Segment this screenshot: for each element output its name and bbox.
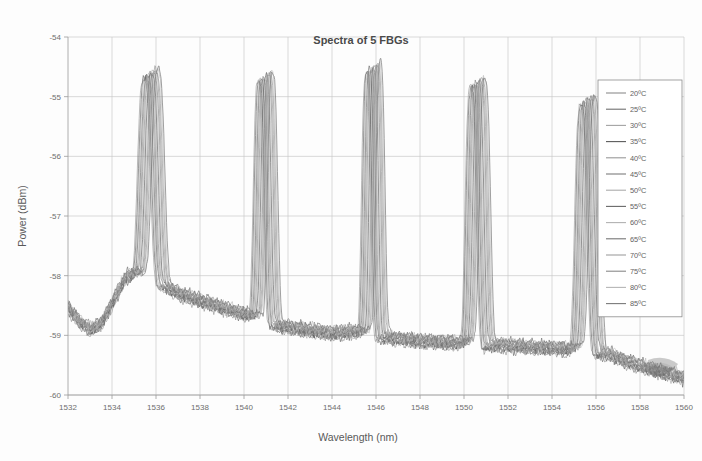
x-tick-label: 1544 (323, 403, 341, 412)
legend-label: 85ºC (630, 299, 647, 308)
legend-box (598, 80, 682, 317)
legend-label: 60ºC (630, 218, 647, 227)
legend-label: 30ºC (630, 121, 647, 130)
legend-label: 35ºC (630, 137, 647, 146)
legend-label: 25ºC (630, 105, 647, 114)
legend-label: 50ºC (630, 186, 647, 195)
legend-label: 20ºC (630, 89, 647, 98)
chart-canvas: -60-59-58-57-56-55-541532153415361538154… (0, 0, 702, 461)
y-tick-label: -54 (49, 33, 61, 42)
y-tick-label: -57 (49, 212, 61, 221)
x-tick-label: 1556 (587, 403, 605, 412)
x-tick-label: 1540 (235, 403, 253, 412)
x-tick-label: 1552 (499, 403, 517, 412)
x-tick-label: 1532 (59, 403, 77, 412)
x-tick-label: 1558 (631, 403, 649, 412)
legend-label: 65ºC (630, 235, 647, 244)
x-tick-label: 1536 (147, 403, 165, 412)
legend-label: 80ºC (630, 283, 647, 292)
x-tick-label: 1548 (411, 403, 429, 412)
legend-label: 75ºC (630, 267, 647, 276)
spectra-chart: -60-59-58-57-56-55-541532153415361538154… (0, 0, 702, 461)
x-tick-label: 1534 (103, 403, 121, 412)
x-tick-label: 1560 (675, 403, 693, 412)
y-tick-label: -55 (49, 93, 61, 102)
x-tick-label: 1554 (543, 403, 561, 412)
x-tick-label: 1546 (367, 403, 385, 412)
legend-label: 70ºC (630, 251, 647, 260)
legend: 20ºC25ºC30ºC35ºC40ºC45ºC50ºC55ºC60ºC65ºC… (598, 80, 682, 317)
x-tick-label: 1538 (191, 403, 209, 412)
y-axis-title: Power (dBm) (16, 185, 28, 246)
y-tick-label: -60 (49, 391, 61, 400)
y-tick-label: -59 (49, 331, 61, 340)
y-tick-label: -58 (49, 272, 61, 281)
x-tick-label: 1550 (455, 403, 473, 412)
legend-label: 40ºC (630, 154, 647, 163)
chart-title: Spectra of 5 FBGs (313, 34, 408, 46)
x-tick-label: 1542 (279, 403, 297, 412)
y-tick-label: -56 (49, 152, 61, 161)
legend-label: 45ºC (630, 170, 647, 179)
legend-label: 55ºC (630, 202, 647, 211)
x-axis-title: Wavelength (nm) (318, 431, 398, 443)
